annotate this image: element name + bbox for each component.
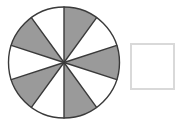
answer-box[interactable] xyxy=(131,44,174,89)
fraction-diagram-canvas xyxy=(0,0,182,126)
fraction-circle xyxy=(9,7,120,118)
